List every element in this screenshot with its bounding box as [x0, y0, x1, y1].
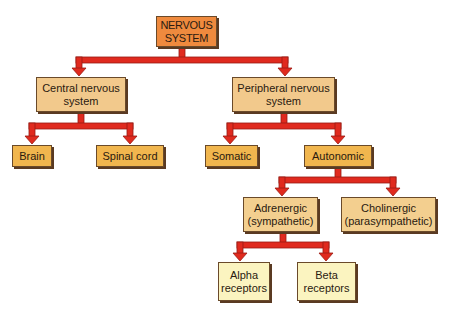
node-spinal-cord: Spinal cord — [96, 145, 164, 167]
node-brain: Brain — [12, 145, 52, 167]
nervous-system-diagram: NERVOUS SYSTEM Central nervous system Pe… — [0, 0, 459, 314]
node-cholinergic: Cholinergic (parasympathetic) — [341, 197, 436, 232]
node-somatic: Somatic — [205, 145, 258, 167]
node-label: Somatic — [212, 150, 252, 163]
node-beta-receptors: Beta receptors — [297, 262, 356, 301]
node-label: NERVOUS SYSTEM — [160, 19, 212, 44]
node-label: Adrenergic (sympathetic) — [247, 202, 313, 227]
node-peripheral-nervous-system: Peripheral nervous system — [232, 77, 335, 112]
node-label: Beta receptors — [304, 269, 350, 294]
node-label: Alpha receptors — [221, 269, 267, 294]
node-label: Autonomic — [312, 150, 364, 163]
node-autonomic: Autonomic — [304, 145, 372, 167]
node-alpha-receptors: Alpha receptors — [218, 262, 270, 301]
node-label: Cholinergic (parasympathetic) — [344, 202, 432, 227]
node-nervous-system: NERVOUS SYSTEM — [156, 16, 217, 47]
node-adrenergic: Adrenergic (sympathetic) — [243, 197, 318, 232]
node-label: Peripheral nervous system — [237, 82, 329, 107]
node-label: Spinal cord — [102, 150, 157, 163]
node-label: Central nervous system — [42, 82, 120, 107]
node-label: Brain — [19, 150, 45, 163]
node-central-nervous-system: Central nervous system — [36, 77, 126, 112]
